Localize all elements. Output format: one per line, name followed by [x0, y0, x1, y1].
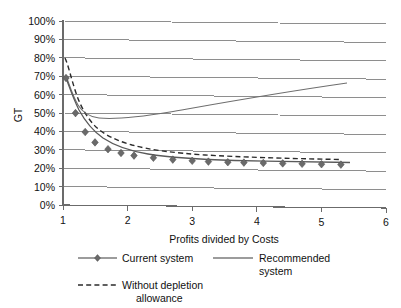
series-without-depletion-allowance: [65, 58, 340, 160]
y-tick-90: 90%: [34, 33, 55, 45]
legend-label-without-depletion-allowance-line2: allowance: [136, 292, 183, 304]
y-tick-50: 50%: [34, 107, 55, 119]
y-tick-40: 40%: [34, 125, 55, 137]
x-tick-2: 2: [125, 214, 131, 226]
legend-label-current-system: Current system: [122, 252, 193, 264]
legend-item-current-system[interactable]: Current system: [78, 252, 193, 264]
x-axis-tick-labels: 1 2 3 4 5 6: [60, 214, 389, 228]
y-tick-60: 60%: [34, 89, 55, 101]
chart-legend: Current system Recommended system Withou…: [78, 252, 330, 304]
y-axis-title: GT: [12, 107, 24, 122]
y-tick-70: 70%: [34, 70, 55, 82]
legend-item-without-depletion-allowance[interactable]: Without depletion allowance: [78, 279, 203, 304]
legend-label-recommended-system-line2: system: [259, 265, 293, 277]
legend-item-recommended-system[interactable]: Recommended system: [213, 252, 330, 277]
x-tick-4: 4: [254, 215, 260, 227]
y-tick-10: 10%: [34, 181, 55, 193]
y-tick-100: 100%: [28, 15, 55, 27]
y-tick-80: 80%: [34, 52, 55, 64]
legend-label-without-depletion-allowance: Without depletion: [122, 279, 203, 291]
legend-diamond-icon: [95, 255, 101, 262]
y-tick-20: 20%: [34, 162, 55, 174]
x-tick-1: 1: [60, 214, 66, 226]
y-tick-0: 0%: [40, 199, 55, 211]
y-tick-30: 30%: [34, 144, 55, 156]
line-chart: 100% 90% 80% 70% 60% 50% 40% 30% 20% 10%…: [0, 0, 401, 308]
y-axis-ticks: [59, 21, 63, 205]
x-axis-title: Profits divided by Costs: [169, 233, 279, 245]
x-tick-3: 3: [189, 215, 195, 227]
y-axis-tick-labels: 100% 90% 80% 70% 60% 50% 40% 30% 20% 10%…: [28, 15, 55, 211]
legend-label-recommended-system: Recommended: [259, 252, 330, 264]
x-tick-5: 5: [318, 216, 324, 228]
x-axis-line: [63, 205, 386, 208]
x-tick-6: 6: [383, 216, 389, 228]
chart-container: 100% 90% 80% 70% 60% 50% 40% 30% 20% 10%…: [0, 0, 401, 308]
